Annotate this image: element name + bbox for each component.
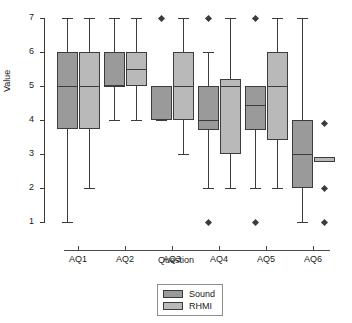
legend-swatch-sound: [163, 290, 183, 298]
box-plot-chart: AQ1AQ2AQ3AQ4AQ5AQ6 1234567 Value Questio…: [0, 0, 352, 323]
median-line: [314, 161, 335, 162]
x-axis-line: [64, 250, 330, 251]
y-axis-tick-label: 1: [0, 217, 34, 226]
y-axis-tick-label: 3: [0, 149, 34, 158]
y-axis-tick-label: 7: [0, 13, 34, 22]
x-axis-tick: [313, 246, 314, 251]
outlier-marker: [320, 184, 327, 191]
outlier-marker: [320, 120, 327, 127]
legend-item-rhmi[interactable]: RHMI: [163, 300, 215, 312]
y-axis-tick-label: 2: [0, 183, 34, 192]
x-axis-tick: [266, 246, 267, 251]
plot-area: AQ1AQ2AQ3AQ4AQ5AQ6: [44, 12, 344, 228]
legend-label-sound: Sound: [189, 289, 215, 299]
x-axis-tick: [219, 246, 220, 251]
x-axis-tick: [78, 246, 79, 251]
x-axis-tick: [125, 246, 126, 251]
legend: Sound RHMI: [157, 284, 223, 316]
legend-item-sound[interactable]: Sound: [163, 288, 215, 300]
outlier-marker: [320, 218, 327, 225]
x-axis-tick: [172, 246, 173, 251]
legend-swatch-rhmi: [163, 302, 183, 310]
box-plot-aq6-rhmi[interactable]: [44, 12, 344, 228]
legend-label-rhmi: RHMI: [189, 301, 212, 311]
y-axis-title: Value: [2, 70, 12, 92]
y-axis-tick-label: 6: [0, 47, 34, 56]
x-axis-title: Question: [0, 255, 352, 265]
y-axis-tick-label: 4: [0, 115, 34, 124]
